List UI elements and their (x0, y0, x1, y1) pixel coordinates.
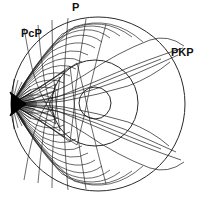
pkp-ray (12, 104, 181, 160)
p-ray (12, 58, 82, 104)
p-ray (12, 104, 82, 150)
p-ray (12, 104, 132, 184)
earth-surface-circle (11, 17, 185, 191)
phase-label-p: P (72, 2, 79, 13)
pkp-ray (12, 104, 176, 152)
pkp-wave-ray-group-lower (12, 104, 181, 160)
phase-label-pkp: PKP (171, 47, 194, 58)
deep-p-branch-group (12, 38, 184, 170)
phase-label-pcp: PcP (21, 28, 42, 39)
seismic-ray-path-diagram: P PcP PKP (0, 0, 202, 201)
